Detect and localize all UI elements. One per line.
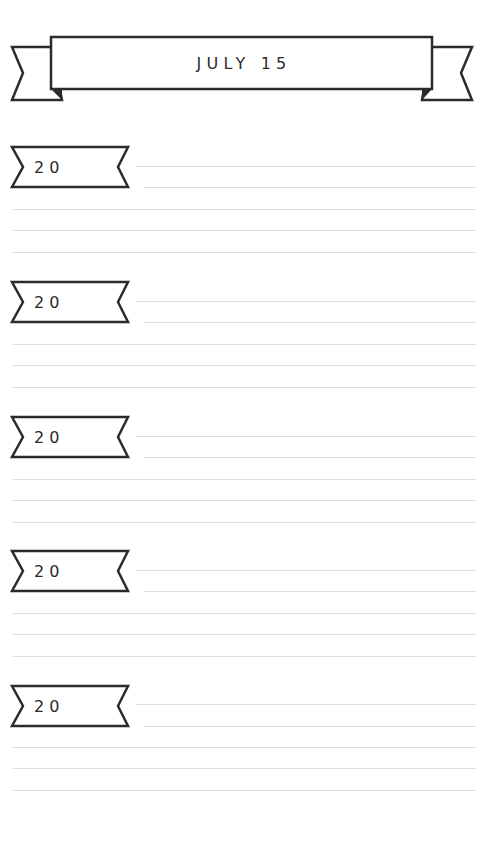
write-line[interactable] [144, 187, 476, 188]
write-line[interactable] [13, 365, 476, 366]
write-line[interactable] [13, 500, 476, 501]
write-line[interactable] [13, 768, 476, 769]
year-label: 20 [34, 417, 94, 457]
write-line[interactable] [136, 436, 476, 437]
journal-page: JULY 15 20 20 20 20 20 [0, 0, 502, 857]
write-line[interactable] [13, 479, 476, 480]
year-label: 20 [34, 147, 94, 187]
year-label: 20 [34, 282, 94, 322]
write-line[interactable] [13, 790, 476, 791]
page-title: JULY 15 [51, 37, 432, 89]
year-label: 20 [34, 686, 94, 726]
write-line[interactable] [13, 387, 476, 388]
write-line[interactable] [136, 704, 476, 705]
write-line[interactable] [13, 522, 476, 523]
write-line[interactable] [144, 457, 476, 458]
write-line[interactable] [13, 252, 476, 253]
write-line[interactable] [13, 613, 476, 614]
year-label: 20 [34, 551, 94, 591]
write-line[interactable] [13, 656, 476, 657]
write-line[interactable] [13, 230, 476, 231]
write-line[interactable] [136, 166, 476, 167]
write-line[interactable] [13, 344, 476, 345]
write-line[interactable] [13, 634, 476, 635]
write-line[interactable] [136, 570, 476, 571]
write-line[interactable] [13, 747, 476, 748]
write-line[interactable] [13, 209, 476, 210]
write-line[interactable] [136, 301, 476, 302]
write-line[interactable] [144, 591, 476, 592]
write-line[interactable] [144, 322, 476, 323]
write-line[interactable] [144, 726, 476, 727]
